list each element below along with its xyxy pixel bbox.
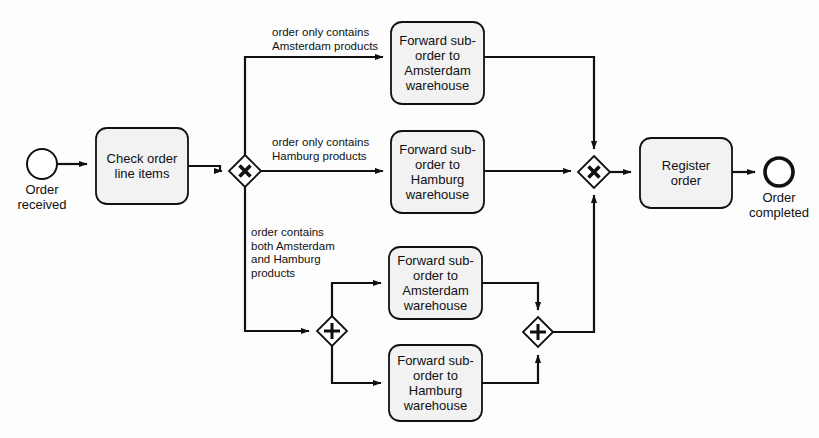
gateway-exclusive-split[interactable] xyxy=(229,155,261,187)
task-forward-amsterdam-exclusive[interactable] xyxy=(391,22,484,104)
task-check-order-line-items[interactable] xyxy=(96,128,188,204)
flow-parallel-split-to-amsterdam xyxy=(332,283,381,316)
bpmn-diagram-canvas: Order received Order completed Check ord… xyxy=(0,0,819,438)
gateway-exclusive-merge[interactable] xyxy=(578,156,610,188)
task-register-order[interactable] xyxy=(640,138,732,208)
gateway-parallel-join[interactable] xyxy=(523,317,553,347)
flow-amsterdam-to-merge xyxy=(484,57,594,149)
task-forward-hamburg-parallel[interactable] xyxy=(389,345,482,421)
flow-split-to-amsterdam xyxy=(245,57,383,155)
flow-parallel-split-to-hamburg xyxy=(332,346,381,383)
flow-split-to-parallel-split xyxy=(245,187,309,331)
flow-join-to-merge xyxy=(553,195,594,332)
task-forward-amsterdam-parallel[interactable] xyxy=(389,247,482,319)
flow-hamburg-to-join xyxy=(482,355,538,383)
flow-amsterdam-to-join xyxy=(482,283,538,310)
flow-check-to-split xyxy=(188,166,222,171)
gateway-parallel-split[interactable] xyxy=(317,316,347,346)
end-event[interactable] xyxy=(765,158,793,186)
start-event[interactable] xyxy=(27,149,57,179)
task-forward-hamburg-exclusive[interactable] xyxy=(391,131,484,213)
